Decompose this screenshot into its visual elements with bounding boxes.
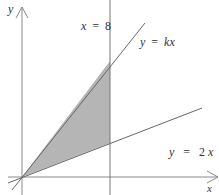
label-y-equals-2x: y = 2 x	[168, 145, 214, 159]
label-y-equals-kx: y = kx	[139, 35, 175, 49]
x-axis-label: x	[206, 182, 212, 194]
line-y-equals-kx	[12, 23, 145, 190]
label-x-equals-8: x = 8	[80, 19, 111, 33]
diagram-svg: y x x = 8 y = kx y = 2 x	[0, 0, 219, 195]
diagram-canvas: y x x = 8 y = kx y = 2 x	[0, 0, 219, 195]
shaded-region	[22, 61, 110, 177]
y-axis-label: y	[7, 2, 14, 16]
